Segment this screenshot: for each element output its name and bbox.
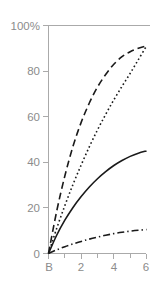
- x-tick-label-2: 2: [78, 261, 84, 273]
- y-tick-label-20: 20: [27, 202, 40, 214]
- chart-figure: 100% 80 60 40 20 0 B 2 4 6: [0, 0, 162, 293]
- x-tick-label-6: 6: [143, 261, 149, 273]
- y-axis-tick-labels: 100% 80 60 40 20 0: [11, 20, 40, 260]
- y-tick-label-80: 80: [27, 65, 40, 77]
- data-curves: [49, 46, 147, 253]
- y-tick-label-40: 40: [27, 156, 40, 168]
- y-axis-ticks: [43, 26, 48, 254]
- y-tick-label-60: 60: [27, 111, 40, 123]
- x-tick-label-4: 4: [111, 261, 118, 273]
- y-tick-label-100: 100%: [11, 20, 40, 32]
- curve-solid: [49, 151, 147, 254]
- x-axis-tick-labels: B 2 4 6: [45, 261, 149, 273]
- y-tick-label-0: 0: [34, 248, 40, 260]
- x-tick-label-b: B: [45, 261, 53, 273]
- line-chart-plot: 100% 80 60 40 20 0 B 2 4 6: [0, 0, 162, 293]
- x-axis-ticks: [49, 254, 147, 259]
- curve-dashdot: [49, 230, 147, 254]
